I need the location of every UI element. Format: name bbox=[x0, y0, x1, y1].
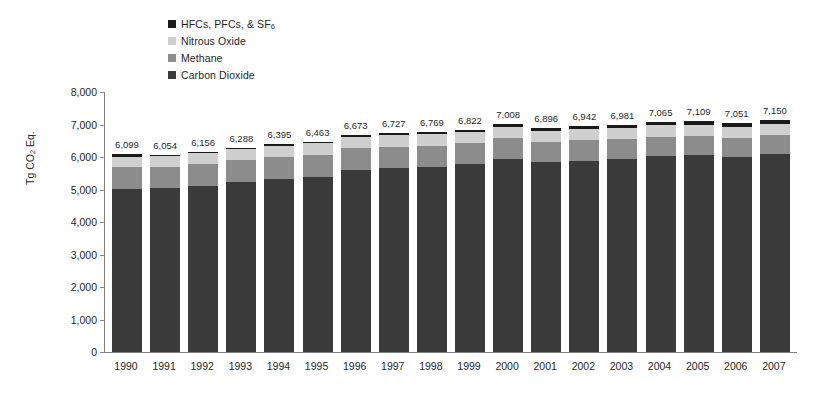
bar-segment[interactable] bbox=[226, 149, 256, 160]
bar-segment[interactable] bbox=[684, 136, 714, 155]
bar-segment[interactable] bbox=[150, 156, 180, 166]
bar-segment[interactable] bbox=[646, 125, 676, 136]
legend-item[interactable]: Methane bbox=[168, 50, 428, 66]
bar-segment[interactable] bbox=[264, 146, 294, 158]
bar-segment[interactable] bbox=[569, 129, 599, 140]
stacked-bar[interactable] bbox=[455, 130, 485, 352]
bar-segment[interactable] bbox=[760, 135, 790, 154]
bar-column[interactable]: 7,008 bbox=[493, 92, 523, 352]
bar-column[interactable]: 6,156 bbox=[188, 92, 218, 352]
stacked-bar[interactable] bbox=[646, 122, 676, 352]
bar-segment[interactable] bbox=[684, 125, 714, 136]
bar-segment[interactable] bbox=[341, 170, 371, 352]
bar-segment[interactable] bbox=[112, 167, 142, 189]
bar-segment[interactable] bbox=[226, 160, 256, 181]
bar-column[interactable]: 6,288 bbox=[226, 92, 256, 352]
legend-item[interactable]: HFCs, PFCs, & SF6 bbox=[168, 16, 428, 32]
bar-column[interactable]: 6,463 bbox=[303, 92, 333, 352]
bar-column[interactable]: 6,054 bbox=[150, 92, 180, 352]
bar-segment[interactable] bbox=[569, 161, 599, 352]
stacked-bar[interactable] bbox=[760, 120, 790, 352]
stacked-bar[interactable] bbox=[150, 155, 180, 352]
bar-segment[interactable] bbox=[493, 138, 523, 158]
bar-segment[interactable] bbox=[303, 155, 333, 177]
bar-column[interactable]: 6,099 bbox=[112, 92, 142, 352]
bar-segment[interactable] bbox=[646, 156, 676, 352]
legend-item[interactable]: Nitrous Oxide bbox=[168, 33, 428, 49]
stacked-bar[interactable] bbox=[684, 121, 714, 352]
stacked-bar[interactable] bbox=[607, 125, 637, 352]
y-axis-tick-label: 4,000 bbox=[71, 216, 97, 228]
stacked-bar[interactable] bbox=[722, 123, 752, 352]
legend-label-subscript: 6 bbox=[271, 22, 275, 31]
bar-column[interactable]: 7,109 bbox=[684, 92, 714, 352]
bar-segment[interactable] bbox=[646, 137, 676, 157]
bar-segment[interactable] bbox=[760, 154, 790, 352]
bar-segment[interactable] bbox=[531, 142, 561, 162]
bar-segment[interactable] bbox=[455, 164, 485, 352]
bar-segment[interactable] bbox=[379, 168, 409, 352]
bar-segment[interactable] bbox=[112, 157, 142, 167]
bar-column[interactable]: 6,896 bbox=[531, 92, 561, 352]
bar-column[interactable]: 7,150 bbox=[760, 92, 790, 352]
stacked-bar[interactable] bbox=[188, 152, 218, 352]
legend-item[interactable]: Carbon Dioxide bbox=[168, 67, 428, 83]
bar-segment[interactable] bbox=[264, 157, 294, 178]
stacked-bar[interactable] bbox=[531, 128, 561, 352]
bar-segment[interactable] bbox=[379, 147, 409, 168]
stacked-bar[interactable] bbox=[226, 148, 256, 352]
bar-segment[interactable] bbox=[493, 159, 523, 352]
bar-segment[interactable] bbox=[188, 164, 218, 186]
bar-series-container: 6,0996,0546,1566,2886,3956,4636,6736,727… bbox=[105, 92, 797, 352]
bar-segment[interactable] bbox=[722, 138, 752, 157]
stacked-bar[interactable] bbox=[569, 126, 599, 352]
bar-segment[interactable] bbox=[188, 186, 218, 352]
bar-segment[interactable] bbox=[341, 137, 371, 148]
bar-segment[interactable] bbox=[607, 128, 637, 139]
bar-segment[interactable] bbox=[569, 140, 599, 160]
bar-column[interactable]: 7,051 bbox=[722, 92, 752, 352]
bar-column[interactable]: 6,942 bbox=[569, 92, 599, 352]
stacked-bar[interactable] bbox=[112, 154, 142, 352]
bar-segment[interactable] bbox=[607, 139, 637, 159]
y-axis-tick-label: 6,000 bbox=[71, 151, 97, 163]
bar-segment[interactable] bbox=[303, 143, 333, 155]
bar-column[interactable]: 6,673 bbox=[341, 92, 371, 352]
bar-column[interactable]: 6,769 bbox=[417, 92, 447, 352]
bar-segment[interactable] bbox=[493, 127, 523, 138]
bar-segment[interactable] bbox=[455, 132, 485, 143]
bar-segment[interactable] bbox=[455, 143, 485, 164]
bar-value-label: 7,065 bbox=[649, 107, 673, 118]
bar-segment[interactable] bbox=[112, 189, 142, 352]
stacked-bar[interactable] bbox=[417, 132, 447, 352]
bar-column[interactable]: 7,065 bbox=[646, 92, 676, 352]
bar-segment[interactable] bbox=[607, 159, 637, 352]
bar-segment[interactable] bbox=[226, 182, 256, 352]
stacked-bar[interactable] bbox=[493, 124, 523, 352]
bar-segment[interactable] bbox=[722, 127, 752, 138]
bar-segment[interactable] bbox=[417, 167, 447, 352]
bar-segment[interactable] bbox=[417, 146, 447, 167]
bar-segment[interactable] bbox=[150, 167, 180, 189]
bar-segment[interactable] bbox=[303, 177, 333, 352]
stacked-bar[interactable] bbox=[379, 133, 409, 352]
bar-segment[interactable] bbox=[150, 188, 180, 352]
stacked-bar[interactable] bbox=[264, 144, 294, 352]
bar-segment[interactable] bbox=[417, 134, 447, 145]
x-axis-tick-label: 2005 bbox=[683, 360, 713, 376]
bar-segment[interactable] bbox=[264, 179, 294, 352]
bar-column[interactable]: 6,727 bbox=[379, 92, 409, 352]
bar-column[interactable]: 6,395 bbox=[264, 92, 294, 352]
bar-segment[interactable] bbox=[531, 162, 561, 352]
bar-segment[interactable] bbox=[188, 153, 218, 164]
bar-column[interactable]: 6,981 bbox=[607, 92, 637, 352]
bar-segment[interactable] bbox=[760, 124, 790, 135]
bar-segment[interactable] bbox=[379, 135, 409, 147]
bar-segment[interactable] bbox=[531, 131, 561, 142]
bar-segment[interactable] bbox=[722, 157, 752, 352]
stacked-bar[interactable] bbox=[303, 142, 333, 352]
bar-segment[interactable] bbox=[684, 155, 714, 352]
stacked-bar[interactable] bbox=[341, 135, 371, 352]
bar-column[interactable]: 6,822 bbox=[455, 92, 485, 352]
bar-segment[interactable] bbox=[341, 148, 371, 169]
